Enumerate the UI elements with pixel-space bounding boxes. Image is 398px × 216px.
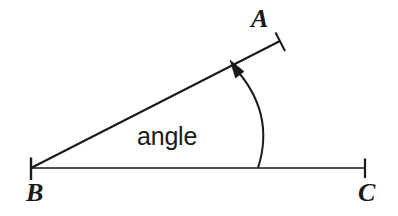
angle-diagram-figure: A B C angle bbox=[0, 0, 398, 216]
vertex-label-b: B bbox=[26, 180, 43, 206]
angle-measure-arc bbox=[233, 66, 263, 168]
geometry-canvas bbox=[0, 0, 398, 216]
vertex-label-c: C bbox=[358, 180, 375, 206]
angle-annotation-label: angle bbox=[137, 124, 197, 149]
vertex-label-a: A bbox=[251, 6, 268, 32]
